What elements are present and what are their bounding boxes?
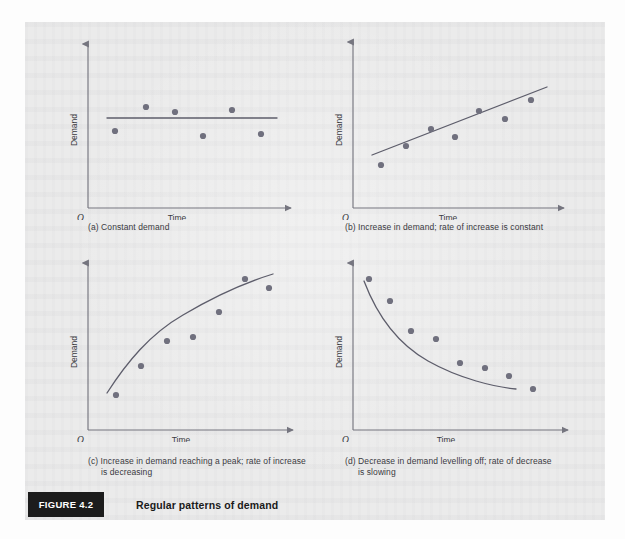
origin-label-a: O [77, 213, 84, 220]
origin-label-b: O [342, 213, 349, 220]
data-point [428, 126, 434, 132]
data-point [258, 131, 264, 137]
figure-number-tag: FIGURE 4.2 [28, 492, 104, 517]
panel-caption-d-line2: is slowing [345, 467, 595, 479]
data-point [506, 373, 512, 379]
panel-caption-c-line2: is decreasing [88, 467, 333, 479]
panel-caption-c: (c) Increase in demand reaching a peak; … [88, 444, 333, 490]
y-axis-label-c: Demand [69, 336, 79, 368]
panel-caption-b: (b) Increase in demand; rate of increase… [345, 222, 595, 234]
y-axis-label-b: Demand [334, 114, 344, 146]
trend-curve-c [107, 274, 273, 393]
data-point [216, 309, 222, 315]
chart-c-svg: O Time Demand [55, 252, 315, 442]
chart-b-svg: O Time Demand [320, 30, 580, 220]
figure-page: O Time Demand (a) Constant demand [0, 0, 625, 539]
x-axis-label-c: Time [172, 435, 191, 442]
data-point [172, 109, 178, 115]
data-point [190, 334, 196, 340]
data-point [408, 328, 414, 334]
origin-label-d: O [342, 435, 349, 442]
chart-a-svg: O Time Demand [55, 30, 305, 220]
data-point [266, 285, 272, 291]
trend-curve-d [364, 281, 516, 389]
data-point [452, 134, 458, 140]
chart-panel-c: O Time Demand (c) Increase in demand rea… [55, 252, 315, 442]
panel-caption-d: (d) Decrease in demand levelling off; ra… [345, 444, 595, 490]
data-point [378, 162, 384, 168]
data-point [476, 108, 482, 114]
panel-caption-c-line1: (c) Increase in demand reaching a peak; … [88, 456, 306, 466]
panel-caption-d-line1: (d) Decrease in demand levelling off; ra… [345, 456, 552, 466]
data-point [229, 107, 235, 113]
x-axis-label-a: Time [168, 213, 187, 220]
y-axis-label-a: Demand [69, 114, 79, 146]
data-point [433, 336, 439, 342]
figure-caption-bar: FIGURE 4.2 Regular patterns of demand [28, 492, 278, 517]
y-axis-label-d: Demand [334, 336, 344, 368]
data-point [387, 298, 393, 304]
chart-panel-b: O Time Demand (b) Increase in demand; ra… [320, 30, 580, 220]
data-point [457, 360, 463, 366]
data-point [138, 363, 144, 369]
panel-caption-a: (a) Constant demand [88, 222, 318, 234]
data-point [482, 365, 488, 371]
data-point [366, 276, 372, 282]
chart-panel-d: O Time Demand (d) Decrease in demand lev… [320, 252, 590, 442]
data-point [143, 104, 149, 110]
data-point [502, 116, 508, 122]
data-point [164, 338, 170, 344]
data-point [112, 128, 118, 134]
data-point [200, 133, 206, 139]
chart-d-svg: O Time Demand [320, 252, 590, 442]
data-point [113, 392, 119, 398]
x-axis-label-d: Time [437, 435, 456, 442]
data-point [242, 276, 248, 282]
chart-panel-a: O Time Demand (a) Constant demand [55, 30, 305, 220]
data-point [530, 386, 536, 392]
origin-label-c: O [77, 435, 84, 442]
trend-line-b [372, 87, 547, 155]
data-point [403, 143, 409, 149]
figure-title: Regular patterns of demand [136, 499, 278, 511]
x-axis-label-b: Time [439, 213, 458, 220]
data-point [528, 97, 534, 103]
